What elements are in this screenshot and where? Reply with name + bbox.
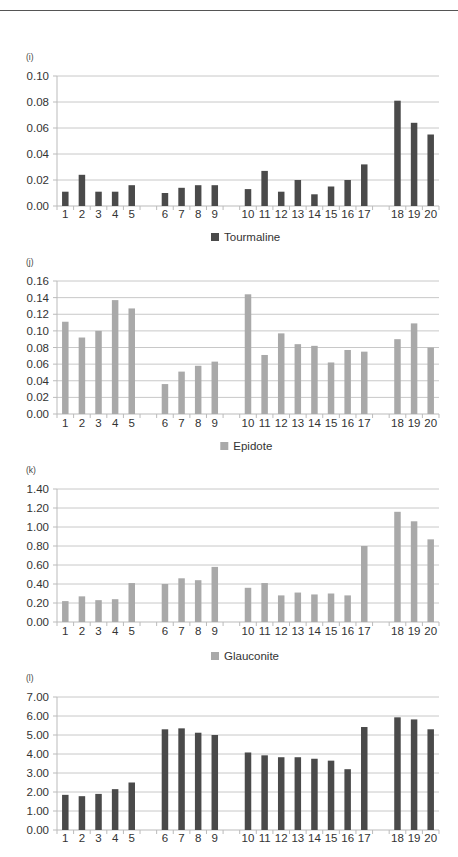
bar-14 [311, 594, 318, 622]
x-tick-label: 6 [162, 625, 168, 637]
bar-6 [162, 193, 169, 206]
x-tick-label: 7 [178, 417, 184, 429]
x-tick-label: 20 [424, 208, 437, 220]
panel-label: (i) [26, 52, 34, 62]
x-tick-label: 10 [242, 832, 255, 844]
y-tick-label: 1.40 [27, 483, 49, 495]
y-tick-label: 0.14 [27, 292, 50, 304]
bar-2 [79, 175, 86, 206]
y-tick-label: 4.00 [27, 748, 49, 760]
y-tick-label: 1.00 [27, 805, 49, 817]
bar-17 [361, 164, 368, 206]
x-tick-label: 16 [341, 625, 354, 637]
bar-7 [178, 578, 185, 622]
y-tick-label: 0.12 [27, 308, 49, 320]
bar-15 [328, 362, 335, 414]
x-tick-label: 3 [95, 832, 101, 844]
bar-16 [344, 595, 351, 622]
legend-swatch [220, 442, 228, 450]
bar-5 [128, 583, 135, 622]
bar-16 [344, 180, 351, 206]
x-tick-label: 17 [358, 625, 371, 637]
x-tick-label: 13 [291, 832, 304, 844]
x-tick-label: 15 [325, 208, 338, 220]
x-tick-label: 12 [275, 832, 288, 844]
bar-9 [212, 362, 219, 414]
bar-15 [328, 187, 335, 207]
y-tick-label: 0.04 [27, 375, 50, 387]
bar-5 [128, 185, 135, 206]
x-tick-label: 9 [212, 417, 218, 429]
x-tick-label: 5 [129, 625, 135, 637]
x-tick-label: 12 [275, 417, 288, 429]
x-tick-label: 1 [62, 832, 68, 844]
x-tick-label: 19 [408, 832, 421, 844]
x-tick-label: 18 [391, 208, 404, 220]
x-tick-label: 1 [62, 208, 68, 220]
bar-8 [195, 580, 202, 622]
y-tick-label: 2.00 [27, 786, 49, 798]
x-tick-label: 5 [129, 417, 135, 429]
chart-panel-2: (j)0.000.020.040.060.080.100.120.140.161… [26, 257, 439, 452]
legend: Tourmaline [211, 231, 280, 243]
bar-6 [162, 384, 169, 414]
x-tick-label: 2 [79, 832, 85, 844]
bar-1 [62, 192, 69, 206]
x-tick-label: 4 [112, 625, 119, 637]
x-tick-label: 19 [408, 208, 421, 220]
x-tick-label: 9 [212, 625, 218, 637]
x-tick-label: 20 [424, 832, 437, 844]
x-tick-label: 3 [95, 208, 101, 220]
legend-label: Tourmaline [224, 231, 280, 243]
bar-19 [411, 521, 418, 622]
bar-19 [411, 123, 418, 206]
y-tick-label: 0.00 [27, 408, 49, 420]
bar-19 [411, 323, 418, 414]
bar-19 [411, 719, 418, 830]
bar-3 [95, 600, 102, 622]
x-tick-label: 11 [259, 417, 271, 429]
bar-13 [295, 344, 302, 414]
bar-3 [95, 794, 102, 830]
x-tick-label: 14 [308, 832, 321, 844]
x-tick-label: 6 [162, 208, 168, 220]
panel-label: (j) [26, 257, 34, 267]
bar-17 [361, 546, 368, 622]
bar-13 [295, 180, 302, 206]
x-tick-label: 17 [358, 208, 371, 220]
legend-swatch [211, 652, 219, 660]
x-tick-label: 1 [62, 625, 68, 637]
bar-6 [162, 729, 169, 830]
bar-10 [245, 189, 252, 206]
bar-20 [427, 348, 434, 415]
bar-10 [245, 588, 252, 622]
x-tick-label: 16 [341, 417, 354, 429]
x-tick-label: 10 [242, 417, 255, 429]
y-tick-label: 0.00 [27, 824, 49, 836]
x-tick-label: 8 [195, 208, 201, 220]
bar-12 [278, 757, 285, 830]
bar-6 [162, 584, 169, 622]
y-tick-label: 0.40 [27, 578, 49, 590]
legend: Glauconite [211, 650, 279, 662]
x-tick-label: 18 [391, 417, 404, 429]
x-tick-label: 9 [212, 832, 218, 844]
bar-9 [212, 735, 219, 830]
legend-label: Epidote [233, 440, 272, 452]
x-tick-label: 14 [308, 625, 321, 637]
x-tick-label: 17 [358, 832, 371, 844]
x-tick-label: 7 [178, 208, 184, 220]
bar-8 [195, 185, 202, 206]
bar-1 [62, 322, 69, 414]
bar-13 [295, 593, 302, 622]
bar-11 [261, 755, 268, 830]
bar-8 [195, 733, 202, 830]
x-tick-label: 3 [95, 625, 101, 637]
x-tick-label: 8 [195, 832, 201, 844]
bar-11 [261, 171, 268, 206]
y-tick-label: 0.80 [27, 540, 49, 552]
bar-14 [311, 194, 318, 206]
x-tick-label: 15 [325, 417, 338, 429]
y-tick-label: 0.08 [27, 342, 49, 354]
x-tick-label: 2 [79, 417, 85, 429]
